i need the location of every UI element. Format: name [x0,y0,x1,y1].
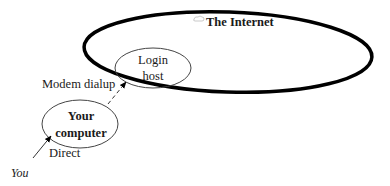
internet-label: The Internet [206,15,275,29]
network-diagram: The Internet Login host Your computer Mo… [0,0,390,186]
you-label: You [11,166,29,180]
your-computer-ellipse [42,100,118,148]
login-host-label-line1: Login [138,53,169,67]
direct-label: Direct [49,146,81,160]
login-host-node: Login host [115,48,191,88]
login-host-label-line2: host [143,69,164,83]
your-computer-label-line1: Your [68,109,95,123]
small-cloud-icon [194,16,204,21]
your-computer-node: Your computer [42,100,118,148]
modem-dialup-label: Modem dialup [42,77,115,91]
your-computer-label-line2: computer [55,126,107,140]
internet-region: The Internet [83,7,374,97]
